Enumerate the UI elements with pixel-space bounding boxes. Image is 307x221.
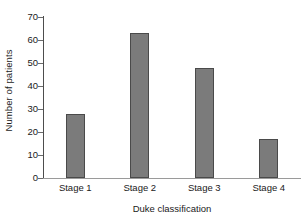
bar[interactable] bbox=[130, 33, 149, 178]
y-axis-tick-label: 0 bbox=[18, 173, 38, 183]
y-axis-tick-label: 60 bbox=[18, 35, 38, 45]
y-axis-tick-mark bbox=[38, 155, 43, 156]
bar-slot bbox=[237, 17, 302, 178]
y-axis-tick-mark bbox=[38, 63, 43, 64]
x-axis-tick-label: Stage 2 bbox=[108, 182, 173, 194]
bar-chart-figure: Number of patients 010203040506070 Stage… bbox=[0, 0, 307, 221]
x-axis-tick-label: Stage 4 bbox=[237, 182, 302, 194]
y-axis-tick-label: 70 bbox=[18, 12, 38, 22]
bar-slot bbox=[172, 17, 237, 178]
y-axis-tick-label: 40 bbox=[18, 81, 38, 91]
bar[interactable] bbox=[259, 139, 278, 178]
y-axis-tick-mark bbox=[38, 178, 43, 179]
x-axis-tick-label: Stage 1 bbox=[43, 182, 108, 194]
x-axis-tick-labels: Stage 1Stage 2Stage 3Stage 4 bbox=[43, 182, 301, 196]
bar[interactable] bbox=[195, 68, 214, 178]
x-axis-line bbox=[43, 178, 301, 179]
plot-area bbox=[43, 17, 301, 178]
y-axis-tick-label: 30 bbox=[18, 104, 38, 114]
bar-slot bbox=[108, 17, 173, 178]
y-axis-tick-label: 20 bbox=[18, 127, 38, 137]
y-axis-tick-mark bbox=[38, 109, 43, 110]
y-axis-tick-mark bbox=[38, 132, 43, 133]
y-axis-title-text: Number of patients bbox=[3, 49, 14, 131]
y-axis-tick-mark bbox=[38, 17, 43, 18]
y-axis-tick-mark bbox=[38, 40, 43, 41]
y-axis-tick-mark bbox=[38, 86, 43, 87]
x-axis-title: Duke classification bbox=[43, 203, 301, 214]
y-axis-tick-label: 10 bbox=[18, 150, 38, 160]
y-axis-tick-labels: 010203040506070 bbox=[14, 0, 38, 221]
bar-slot bbox=[43, 17, 108, 178]
y-axis-tick-label: 50 bbox=[18, 58, 38, 68]
x-axis-tick-label: Stage 3 bbox=[172, 182, 237, 194]
bar[interactable] bbox=[66, 114, 85, 178]
